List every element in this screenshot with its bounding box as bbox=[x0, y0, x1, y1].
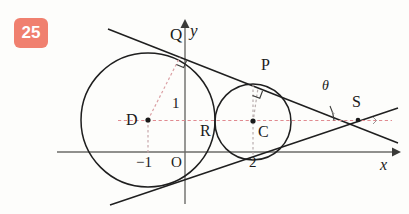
label-point-s: S bbox=[352, 94, 361, 110]
construction-lines-group bbox=[118, 57, 392, 159]
point-dot-s bbox=[356, 118, 361, 123]
axes-group bbox=[57, 19, 401, 204]
label-tick-two: 2 bbox=[249, 155, 257, 170]
point-dot-d bbox=[145, 117, 150, 122]
geometry-diagram bbox=[0, 0, 409, 214]
x-axis-arrow-icon bbox=[392, 148, 401, 157]
label-x-axis: x bbox=[380, 157, 387, 173]
label-point-d: D bbox=[126, 112, 138, 128]
label-point-c: C bbox=[258, 124, 269, 140]
label-origin: O bbox=[171, 155, 182, 170]
label-tick-minus-one: −1 bbox=[136, 155, 152, 170]
point-dot-c bbox=[250, 118, 255, 123]
theta-angle-group bbox=[330, 106, 335, 121]
label-theta: θ bbox=[322, 79, 329, 93]
label-point-q: Q bbox=[170, 26, 182, 43]
label-tick-one: 1 bbox=[172, 96, 180, 111]
label-point-p: P bbox=[261, 57, 270, 73]
radius-cp-dashed bbox=[253, 88, 258, 122]
label-y-axis: y bbox=[190, 22, 198, 39]
label-point-r: R bbox=[200, 123, 211, 139]
